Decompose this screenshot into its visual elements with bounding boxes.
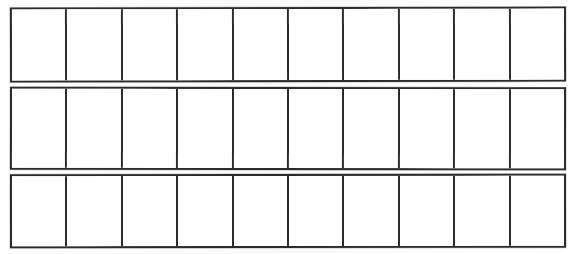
grid-cell[interactable] [455, 9, 511, 80]
grid-cell[interactable] [12, 89, 67, 168]
grid-cell[interactable] [455, 89, 510, 168]
worksheet-canvas [0, 0, 571, 254]
grid-cell[interactable] [344, 89, 399, 168]
grid-cell[interactable] [178, 9, 234, 80]
grid-row-strip-2 [10, 87, 566, 170]
grid-cell[interactable] [178, 176, 233, 246]
grid-cell[interactable] [455, 176, 510, 246]
grid-cell[interactable] [344, 9, 400, 80]
grid-cell[interactable] [289, 89, 344, 168]
grid-cell[interactable] [12, 9, 68, 80]
grid-cell[interactable] [12, 176, 67, 246]
grid-cell[interactable] [123, 176, 178, 246]
grid-cell[interactable] [178, 89, 233, 168]
grid-cell[interactable] [511, 89, 564, 168]
grid-cell[interactable] [123, 89, 178, 168]
grid-cell[interactable] [234, 176, 289, 246]
grid-cell[interactable] [400, 89, 455, 168]
grid-row-strip-3 [10, 174, 566, 248]
grid-cell[interactable] [234, 89, 289, 168]
grid-cell[interactable] [511, 9, 565, 80]
grid-cell[interactable] [400, 176, 455, 246]
grid-cell[interactable] [67, 176, 122, 246]
grid-cell[interactable] [344, 176, 399, 246]
grid-cell[interactable] [289, 176, 344, 246]
grid-cell[interactable] [234, 9, 290, 80]
grid-cell[interactable] [400, 9, 456, 80]
grid-cell[interactable] [289, 9, 345, 80]
grid-cell[interactable] [123, 9, 179, 80]
grid-cell[interactable] [67, 89, 122, 168]
grid-cell[interactable] [67, 9, 123, 80]
grid-row-strip-1 [10, 7, 566, 83]
grid-cell[interactable] [511, 176, 564, 246]
